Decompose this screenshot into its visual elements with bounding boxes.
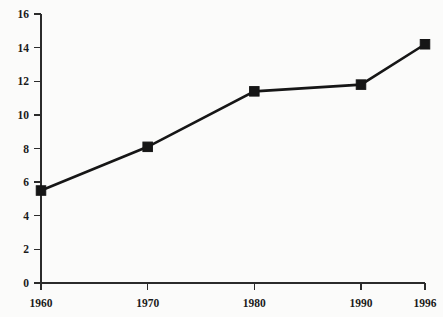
data-point-marker: [420, 40, 430, 50]
data-point-marker: [36, 186, 46, 196]
y-axis-tick-labels: 0246810121416: [18, 8, 30, 289]
y-tick-label: 8: [23, 143, 29, 155]
y-tick-label: 0: [23, 277, 29, 289]
y-axis-ticks: [34, 14, 41, 283]
y-tick-label: 12: [18, 75, 30, 87]
x-tick-label: 1990: [350, 297, 373, 309]
y-tick-label: 10: [18, 109, 30, 121]
y-axis: 0246810121416: [18, 8, 42, 289]
series-line-path: [41, 44, 425, 190]
x-axis: 19601970198019901996: [30, 283, 437, 309]
chart-canvas: 0246810121416 19601970198019901996: [0, 0, 443, 317]
data-point-marker: [356, 80, 366, 90]
x-tick-label: 1970: [136, 297, 159, 309]
y-tick-label: 4: [23, 210, 29, 222]
data-point-marker: [250, 87, 260, 97]
line-chart: 0246810121416 19601970198019901996: [0, 0, 443, 317]
x-tick-label: 1996: [414, 297, 437, 309]
y-tick-label: 2: [23, 243, 29, 255]
x-axis-tick-labels: 19601970198019901996: [30, 297, 437, 309]
y-tick-label: 6: [23, 176, 29, 188]
x-axis-ticks: [41, 283, 425, 290]
y-tick-label: 16: [18, 8, 30, 20]
data-point-marker: [143, 142, 153, 152]
series-markers: [36, 40, 430, 196]
data-series: [36, 40, 430, 196]
x-tick-label: 1960: [30, 297, 53, 309]
y-tick-label: 14: [18, 42, 30, 54]
x-tick-label: 1980: [243, 297, 266, 309]
